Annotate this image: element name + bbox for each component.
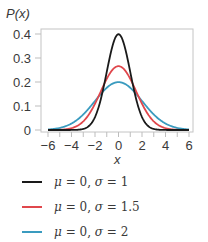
legend-swatch-black — [22, 181, 42, 183]
legend-label: μ = 0, σ = 2 — [54, 225, 128, 239]
y-tick-label: 0 — [24, 123, 31, 138]
y-tick-label: 0.4 — [13, 27, 31, 42]
y-tick-label: 0.3 — [13, 51, 31, 66]
x-tick-label: 4 — [162, 138, 169, 153]
curve-sigma-2 — [48, 82, 189, 129]
curve-sigma-1-5 — [48, 66, 189, 130]
y-tick-label: 0.1 — [13, 99, 31, 114]
x-tick-label: 6 — [185, 138, 192, 153]
plot-frame — [41, 29, 193, 132]
legend-item: μ = 0, σ = 1.5 — [22, 197, 140, 217]
x-axis: −6−4−20246 — [41, 132, 193, 153]
x-axis-title: x — [113, 152, 121, 167]
legend-label: μ = 0, σ = 1 — [54, 175, 128, 189]
legend-swatch-red — [22, 206, 42, 208]
legend-swatch-blue — [22, 231, 42, 233]
curves — [48, 34, 189, 130]
x-tick-label: −2 — [88, 138, 103, 153]
y-axis-title: P(x) — [6, 6, 30, 21]
y-tick-label: 0.2 — [13, 75, 31, 90]
legend-item: μ = 0, σ = 1 — [22, 172, 128, 192]
x-tick-label: −4 — [64, 138, 79, 153]
y-axis: 00.10.20.30.4 — [13, 27, 41, 138]
legend-item: μ = 0, σ = 2 — [22, 222, 128, 242]
x-tick-label: 2 — [138, 138, 145, 153]
chart-area: 00.10.20.30.4 −6−4−20246 P(x) x — [0, 0, 208, 170]
legend-label: μ = 0, σ = 1.5 — [54, 200, 140, 214]
x-tick-label: −6 — [41, 138, 56, 153]
x-tick-label: 0 — [115, 138, 122, 153]
